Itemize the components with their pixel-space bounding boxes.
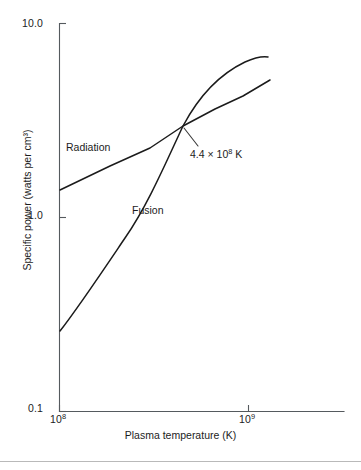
- crossing-annotation-multiplier: × 10: [208, 148, 229, 160]
- x-tick-label-1e9: 109: [239, 414, 255, 425]
- footer-divider: [0, 461, 361, 462]
- figure-container: 10.0 1.0 0.1 108 109 Plasma temperature …: [0, 0, 361, 470]
- y-axis-title-wrapper: Specific power (watts per cm³): [17, 90, 35, 310]
- series-line-fusion: [60, 57, 268, 331]
- series-label-fusion: Fusion: [132, 205, 164, 216]
- x-axis-title: Plasma temperature (K): [0, 430, 361, 441]
- series-label-radiation: Radiation: [66, 142, 110, 153]
- chart-canvas: [0, 0, 361, 470]
- x-tick-label-1e9-exponent: 9: [251, 412, 255, 421]
- x-tick-label-1e9-base: 10: [239, 413, 251, 425]
- crossing-annotation-value: 4.4: [190, 148, 208, 160]
- crossing-annotation-unit: K: [232, 148, 242, 160]
- y-tick-label-10: 10.0: [22, 18, 43, 29]
- x-tick-label-1e8-exponent: 8: [62, 412, 66, 421]
- y-axis-title: Specific power (watts per cm³): [21, 129, 33, 270]
- y-tick-label-0-1: 0.1: [28, 403, 43, 414]
- x-tick-label-1e8: 108: [50, 414, 66, 425]
- series-line-radiation: [60, 80, 270, 190]
- annotation-leader-line: [184, 128, 198, 146]
- crossing-point-annotation: 4.4 × 108 K: [190, 149, 242, 160]
- x-tick-label-1e8-base: 10: [50, 413, 62, 425]
